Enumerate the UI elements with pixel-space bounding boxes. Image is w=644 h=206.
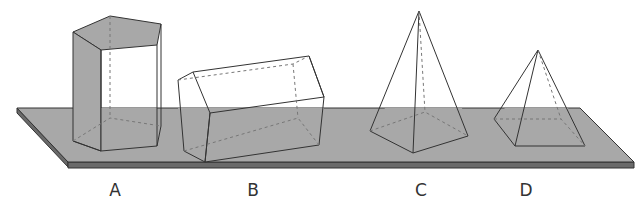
label-c: C xyxy=(415,180,427,200)
solids-diagram xyxy=(0,0,644,206)
label-a: A xyxy=(109,180,121,200)
label-b: B xyxy=(247,180,259,200)
label-d: D xyxy=(519,180,532,200)
shape-d-square-pyramid xyxy=(494,50,585,146)
prism-a-front-face-lower xyxy=(101,108,157,151)
shape-a-pentagonal-prism xyxy=(73,16,161,151)
shape-c-pentagonal-pyramid xyxy=(370,11,468,153)
platform-front-edge xyxy=(68,162,634,168)
shape-b-pentagonal-prism xyxy=(178,56,324,162)
prism-a-left-face xyxy=(73,32,101,151)
